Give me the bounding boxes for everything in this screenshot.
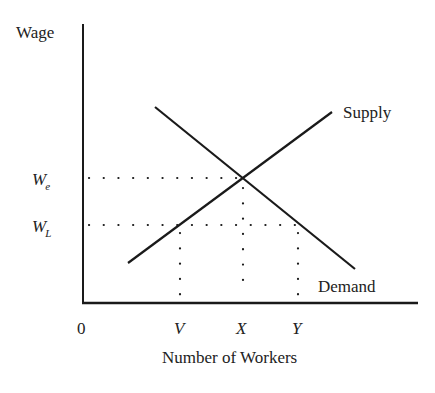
demand-label: Demand	[318, 277, 376, 296]
wl-label: WL	[32, 217, 51, 239]
supply-label: Supply	[343, 103, 392, 122]
we-label: We	[32, 170, 50, 192]
origin-label: 0	[77, 319, 86, 338]
x-label: X	[235, 319, 247, 338]
y-axis-label: Wage	[16, 23, 54, 42]
demand-curve	[155, 107, 355, 269]
v-label: V	[174, 319, 187, 338]
supply-curve	[128, 112, 332, 263]
labor-market-diagram: Wage Supply Demand We WL 0 V X Y Number …	[0, 0, 435, 393]
x-axis-label: Number of Workers	[162, 348, 297, 367]
y-label: Y	[292, 319, 303, 338]
